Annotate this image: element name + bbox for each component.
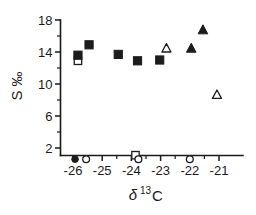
data-point-open-circle	[83, 156, 90, 163]
x-tick-label: -25	[93, 163, 112, 178]
y-axis-ticks: 26101418	[38, 13, 60, 156]
scatter-plot: 26101418-26-25-24-23-22-21S ‰δ13C	[0, 0, 256, 215]
y-axis-title-text: S ‰	[8, 71, 25, 100]
y-tick-label: 2	[45, 141, 52, 156]
data-point-open-triangle	[212, 90, 221, 98]
y-tick-label: 6	[45, 109, 52, 124]
x-axis-title: δ13C	[129, 185, 163, 204]
x-tick-label: -24	[122, 163, 141, 178]
y-tick-label: 14	[38, 45, 52, 60]
data-point-filled-square	[156, 56, 164, 64]
x-axis-title-superscript: 13	[140, 185, 152, 196]
x-axis-title-element: C	[152, 187, 163, 204]
data-point-filled-square	[74, 51, 82, 59]
x-tick-label: -23	[151, 163, 170, 178]
x-tick-label: -22	[180, 163, 199, 178]
data-point-filled-square	[114, 50, 122, 58]
data-point-open-circle	[186, 156, 193, 163]
data-point-filled-square	[85, 41, 93, 49]
chart-figure: 26101418-26-25-24-23-22-21S ‰δ13C	[0, 0, 256, 215]
y-tick-label: 18	[38, 13, 52, 28]
y-axis-title: S ‰	[8, 71, 25, 100]
x-tick-label: -26	[64, 163, 83, 178]
data-point-open-triangle	[162, 44, 171, 52]
data-point-filled-square	[133, 57, 141, 65]
data-point-filled-triangle	[186, 43, 196, 52]
x-tick-label: -21	[210, 163, 229, 178]
data-point-filled-triangle	[198, 25, 208, 34]
y-tick-label: 10	[38, 77, 52, 92]
data-point-filled-circle	[72, 156, 79, 163]
x-axis-title-delta: δ	[129, 186, 138, 203]
data-points-group	[72, 25, 222, 163]
data-point-open-circle	[135, 156, 142, 163]
